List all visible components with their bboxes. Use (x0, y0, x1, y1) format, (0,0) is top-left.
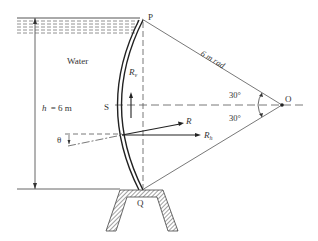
label-horizontal-force: Rh (203, 130, 213, 141)
label-angle-lower: 30° (229, 113, 241, 123)
label-theta: θ (57, 135, 61, 145)
horizontal-force-arrow (122, 133, 201, 137)
label-water: Water (67, 56, 88, 66)
theta-reference-lines (65, 134, 122, 146)
depth-dimension (33, 18, 37, 189)
label-vertical-force: Rv (128, 67, 138, 78)
label-point-q: Q (137, 198, 144, 208)
label-depth: h = 6 m (42, 103, 72, 113)
radius-line-qo (142, 105, 282, 190)
label-point-p: P (148, 12, 153, 22)
label-angle-upper: 30° (229, 90, 241, 100)
label-radius: 6 m rad (199, 48, 227, 71)
label-point-s: S (104, 102, 109, 112)
label-point-o: O (285, 94, 292, 104)
gate-diagram: Water h = 6 m P S O Q 6 m rad 30° 30° θ … (0, 0, 318, 241)
resultant-force-arrow (122, 122, 184, 136)
label-resultant: R (185, 116, 192, 126)
center-point-o (280, 103, 284, 107)
foundation-support (106, 190, 178, 231)
